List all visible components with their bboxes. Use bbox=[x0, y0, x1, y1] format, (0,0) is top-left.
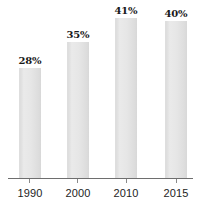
bar-group-2000: 35% bbox=[67, 42, 89, 178]
x-axis-line bbox=[8, 178, 193, 179]
bar-group-2015: 40% bbox=[165, 21, 187, 178]
plot-area: 28% 35% 41% 40% bbox=[0, 0, 200, 178]
bar-value-label: 41% bbox=[98, 5, 154, 16]
bar-value-label: 40% bbox=[148, 8, 200, 19]
bar-value-label: 28% bbox=[2, 55, 58, 66]
x-axis-tick-1990 bbox=[29, 179, 30, 183]
bar-group-2010: 41% bbox=[115, 18, 137, 178]
x-axis-label-2015: 2015 bbox=[146, 186, 200, 200]
bar-2010[interactable] bbox=[115, 18, 137, 178]
bar-chart: 28% 35% 41% 40% 1990 2000 2010 2015 bbox=[0, 0, 200, 207]
x-axis-tick-2010 bbox=[126, 179, 127, 183]
bar-1990[interactable] bbox=[19, 68, 41, 178]
bar-2015[interactable] bbox=[165, 21, 187, 178]
bar-value-label: 35% bbox=[50, 29, 106, 40]
bar-group-1990: 28% bbox=[19, 68, 41, 178]
x-axis-tick-2000 bbox=[77, 179, 78, 183]
x-axis-tick-2015 bbox=[176, 179, 177, 183]
bar-2000[interactable] bbox=[67, 42, 89, 178]
